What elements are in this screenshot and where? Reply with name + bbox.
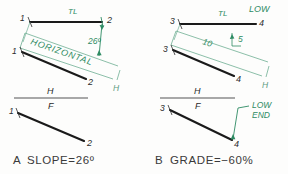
panel-b-aux-point-3-label: 3 bbox=[163, 44, 168, 54]
panel-b-reference-mark-label: H bbox=[262, 80, 269, 90]
panel-b-top-point-3-label: 3 bbox=[170, 16, 175, 26]
panel-a-fold-lower-label: F bbox=[48, 101, 54, 111]
panel-b-caption: B GRADE=−60% bbox=[155, 154, 253, 166]
canvas-background bbox=[0, 0, 288, 174]
panel-b-top-point-4-label: 4 bbox=[259, 18, 264, 28]
panel-b-low-end-label-line2: END bbox=[252, 110, 270, 120]
engineering-drawing-canvas: 1 2 TL 26º HORIZONTAL 1 2 bbox=[0, 0, 288, 174]
panel-a-front-point-1-label: 1 bbox=[9, 106, 14, 116]
panel-a-top-point-1-label: 1 bbox=[20, 13, 25, 23]
panel-b-fold-lower-label: F bbox=[195, 101, 201, 111]
panel-b-front-point-4-label: 4 bbox=[234, 139, 239, 149]
figure-root: 1 2 TL 26º HORIZONTAL 1 2 bbox=[0, 0, 288, 174]
panel-a-caption-key: A bbox=[13, 154, 21, 166]
panel-a-caption-body: SLOPE=26º bbox=[27, 154, 95, 166]
panel-b-low-label: LOW bbox=[249, 4, 271, 14]
panel-a-aux-point-1-label: 1 bbox=[12, 46, 17, 56]
panel-b-caption-body: GRADE=−60% bbox=[170, 154, 253, 166]
panel-b-aux-point-4-label: 4 bbox=[236, 74, 241, 84]
panel-a-top-point-2-label: 2 bbox=[106, 15, 112, 25]
panel-a-angle-label: 26º bbox=[87, 36, 101, 46]
panel-b-fold-upper-label: H bbox=[194, 86, 201, 96]
panel-b-front-point-3-label: 3 bbox=[160, 103, 165, 113]
panel-b-caption-key: B bbox=[155, 154, 163, 166]
panel-b-low-end-label-line1: LOW bbox=[252, 100, 272, 110]
panel-a-aux-point-2-label: 2 bbox=[87, 77, 93, 87]
panel-b-tl-label: TL bbox=[218, 9, 227, 18]
panel-a-fold-upper-label: H bbox=[47, 86, 54, 96]
panel-a-front-point-2-label: 2 bbox=[86, 138, 92, 148]
panel-a-reference-mark-label: H bbox=[113, 83, 120, 93]
panel-a-tl-label: TL bbox=[68, 7, 77, 16]
panel-b-rise-dimension-label: 5 bbox=[238, 34, 243, 44]
